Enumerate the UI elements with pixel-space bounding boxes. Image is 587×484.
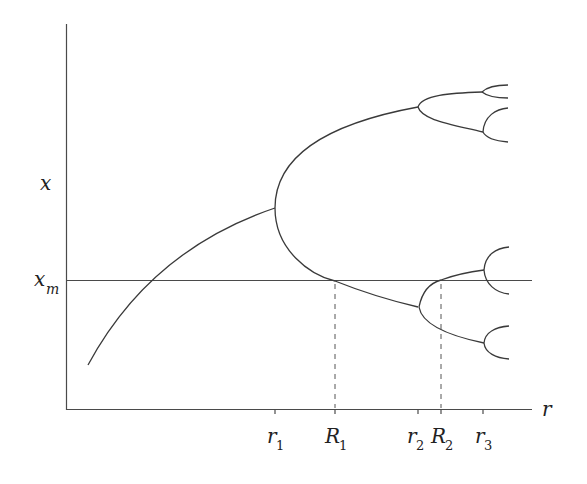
period8-branch-6 xyxy=(484,270,509,294)
period4-branch-d xyxy=(419,307,484,343)
svg-text:2: 2 xyxy=(416,438,424,453)
svg-text:1: 1 xyxy=(276,438,284,453)
svg-text:3: 3 xyxy=(484,438,492,453)
period4-branch-a xyxy=(418,92,482,107)
svg-text:R: R xyxy=(430,424,446,448)
period4-branch-c xyxy=(419,270,484,307)
tick-label-r3: r 3 xyxy=(475,424,492,453)
period2-upper-branch xyxy=(275,107,418,208)
y-axis-label: x xyxy=(40,171,51,195)
period8-branch-5 xyxy=(484,247,509,270)
svg-text:1: 1 xyxy=(339,438,347,453)
tick-label-r2: r 2 xyxy=(407,424,424,453)
bifurcation-diagram: x r x m r 1 R 1 r 2 R 2 r 3 xyxy=(0,0,587,484)
svg-text:2: 2 xyxy=(445,438,453,453)
tick-label-R2: R 2 xyxy=(430,424,453,453)
period8-branch-8 xyxy=(484,343,509,359)
xm-label: x m xyxy=(34,267,59,297)
period8-branch-7 xyxy=(484,326,509,343)
svg-text:R: R xyxy=(324,424,340,448)
x-axis-label: r xyxy=(542,397,553,421)
period8-branch-2 xyxy=(482,92,508,98)
tick-label-r1: r 1 xyxy=(267,424,284,453)
period8-branch-4 xyxy=(483,132,508,142)
svg-text:m: m xyxy=(46,281,59,297)
period8-branch-1 xyxy=(482,85,508,92)
svg-text:x: x xyxy=(34,267,45,291)
fixed-point-branch xyxy=(88,208,275,365)
period8-branch-3 xyxy=(483,108,508,132)
period4-branch-b xyxy=(418,107,483,132)
tick-label-R1: R 1 xyxy=(324,424,347,453)
period2-lower-branch xyxy=(275,208,418,307)
